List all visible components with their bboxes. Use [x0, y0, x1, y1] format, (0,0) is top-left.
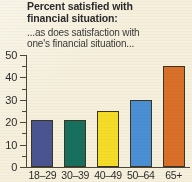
bar-chart-figure: Percent satisfied with financial situati…	[0, 0, 192, 182]
plot-area	[26, 55, 190, 167]
y-axis-tick-label: 0	[0, 162, 17, 173]
bar-65+	[163, 66, 185, 167]
y-axis-tick-label: 30	[0, 95, 17, 106]
y-axis-tick-label: 50	[0, 50, 17, 61]
bar-40-49	[97, 111, 119, 167]
chart-subtitle-line-1: ...as does satisfaction with	[27, 27, 189, 39]
x-axis-tick-labels: 18–2930–3940–4950–6465+	[26, 169, 192, 182]
y-axis-tick-label: 10	[0, 140, 17, 151]
chart-subtitle-block: ...as does satisfaction with one's finan…	[27, 27, 189, 50]
y-axis-tick-label: 20	[0, 117, 17, 128]
chart-title-block: Percent satisfied with financial situati…	[27, 1, 189, 50]
bar-18-29	[31, 120, 53, 167]
bar-30-39	[64, 120, 86, 167]
chart-subtitle-line-2: one's financial situation...	[27, 38, 189, 50]
chart-title-line-2: financial situation:	[27, 13, 189, 25]
y-axis-tick-label: 40	[0, 72, 17, 83]
y-axis-major-tick	[20, 167, 27, 168]
x-axis-line	[26, 167, 190, 168]
bar-50-64	[130, 100, 152, 167]
x-axis-tick-label: 65+	[154, 169, 192, 181]
